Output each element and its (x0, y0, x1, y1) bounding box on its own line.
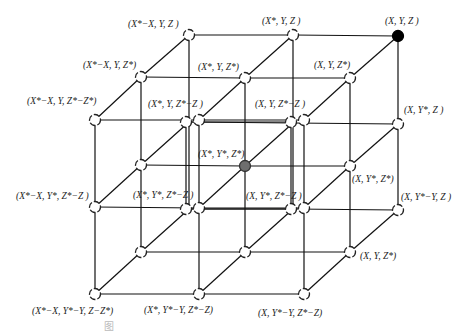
lattice-edge (95, 165, 141, 207)
state-node-icon (194, 115, 205, 126)
lattice-edge (141, 209, 189, 252)
node-labels: (X*−X, Y, Z )(X*, Y, Z )(X, Y, Z )(X*−X,… (16, 16, 451, 319)
node-label: (X, Y, Z ) (385, 16, 419, 27)
node-label: (X*, Y*, Z*−Z ) (133, 190, 194, 201)
state-node-icon (393, 205, 404, 216)
node-label: (X*−X, Y, Z ) (128, 19, 179, 30)
lattice-edge (350, 124, 398, 166)
node-label: (X*, Y, Z ) (262, 16, 300, 27)
state-node-icon (299, 115, 310, 126)
lattice-edge (141, 35, 189, 77)
lattice-edge (141, 165, 245, 166)
state-node-icon (345, 247, 356, 258)
lattice-edge (141, 122, 189, 165)
cube-lattice-svg: (X*−X, Y, Z )(X*, Y, Z )(X, Y, Z )(X*−X,… (0, 0, 465, 333)
lattice-edge (304, 252, 350, 294)
node-label: (X*, Y*−Y, Z*−Z) (144, 305, 213, 316)
node-label: (X, Y*, Z ) (404, 105, 443, 116)
lattice-edge (304, 78, 350, 120)
lattice-edge (141, 77, 245, 78)
node-label: (X, Y, Z*) (314, 60, 350, 71)
node-label: (X, Y*, Z*) (352, 174, 394, 185)
node-label: (X*−X, Y*−Y, Z−Z*) (32, 306, 113, 317)
lattice-edge (293, 35, 398, 36)
state-node-icon (240, 247, 251, 258)
state-node-icon (288, 30, 299, 41)
lattice-edge (350, 210, 398, 252)
target-node-icon (393, 31, 404, 42)
center-node-icon (240, 161, 251, 172)
state-node-icon (286, 117, 297, 128)
state-node-icon (181, 117, 192, 128)
state-node-icon (345, 73, 356, 84)
state-node-icon (136, 247, 147, 258)
state-node-icon (90, 202, 101, 213)
lattice-edge (199, 166, 245, 208)
node-label: (X, Y*−Y, Z*−Z) (258, 308, 322, 319)
node-label: (X, Y, Z*) (360, 251, 396, 262)
state-node-icon (240, 73, 251, 84)
state-node-icon (299, 289, 310, 300)
lattice-edge (245, 35, 293, 78)
node-label: (X*−X, Y*, Z*−Z ) (16, 191, 89, 202)
node-label: (X*, Y, Z*) (198, 62, 239, 73)
state-node-icon (181, 204, 192, 215)
state-node-icon (299, 203, 310, 214)
state-node-icon (393, 119, 404, 130)
figure-caption: 图 (104, 318, 115, 333)
state-node-icon (136, 160, 147, 171)
lattice-nodes (90, 30, 404, 300)
node-label: (X, Y, Z*−Z ) (255, 99, 305, 110)
state-node-icon (194, 203, 205, 214)
state-node-icon (136, 72, 147, 83)
lattice-edge (199, 252, 245, 294)
lattice-edge (199, 78, 245, 120)
node-label: (X*, Y*, Z*) (198, 149, 244, 160)
lattice-edge (245, 123, 293, 166)
state-node-icon (90, 289, 101, 300)
state-node-icon (286, 204, 297, 215)
state-node-icon (90, 115, 101, 126)
node-label: (X*−X, Y, Z*−Z*) (27, 96, 96, 107)
state-node-icon (194, 289, 205, 300)
node-label: (X, Y*, Z*−Z ) (246, 191, 302, 202)
lattice-edge (304, 166, 350, 208)
node-label: (X*−X, Y, Z*) (83, 60, 136, 71)
node-label: (X*, Y, Z*−Z ) (148, 99, 203, 110)
lattice-edge (95, 77, 141, 120)
node-label: (X, Y*−Y, Z ) (401, 192, 451, 203)
state-node-icon (345, 161, 356, 172)
state-node-icon (184, 30, 195, 41)
lattice-edge (95, 252, 141, 294)
lattice-edge (350, 36, 398, 78)
lattice-diagram: (X*−X, Y, Z )(X*, Y, Z )(X, Y, Z )(X*−X,… (0, 0, 465, 333)
lattice-edge (245, 209, 293, 252)
